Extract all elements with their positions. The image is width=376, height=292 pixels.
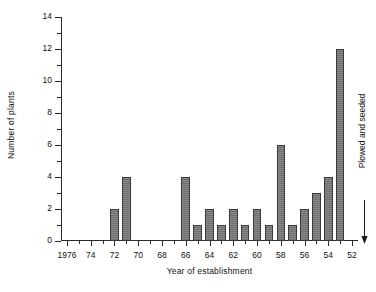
- x-axis-tick-major: [114, 241, 115, 246]
- y-axis-tick-major: 2: [55, 209, 61, 210]
- annotation-label: Plowed and seeded: [357, 94, 367, 169]
- bar: [205, 209, 214, 241]
- x-axis-tick-major: [138, 241, 139, 246]
- x-axis-tick-minor: [340, 241, 341, 244]
- x-axis-tick-major: [210, 241, 211, 246]
- y-axis-tick-major: 6: [55, 145, 61, 146]
- bar: [110, 209, 119, 241]
- x-axis-tick-label: 64: [205, 250, 214, 260]
- x-axis-tick-major: [257, 241, 258, 246]
- y-axis-tick-minor: [57, 33, 61, 34]
- x-axis-tick-label: 56: [300, 250, 309, 260]
- x-axis-tick-label: 54: [324, 250, 333, 260]
- x-axis-tick-label: 72: [110, 250, 119, 260]
- y-axis-title-text: Number of plants: [6, 91, 16, 159]
- x-axis-tick-label: 58: [276, 250, 285, 260]
- y-axis-tick-label: 6: [47, 139, 52, 149]
- y-axis-tick-minor: [57, 161, 61, 162]
- y-axis-tick-minor: [57, 97, 61, 98]
- bar: [288, 225, 297, 241]
- x-axis-tick-label: 66: [181, 250, 190, 260]
- x-axis-tick-label: 68: [157, 250, 166, 260]
- x-axis-tick-major: [305, 241, 306, 246]
- x-axis-tick-minor: [198, 241, 199, 244]
- y-axis-tick-label: 14: [43, 11, 52, 21]
- x-axis-tick-minor: [269, 241, 270, 244]
- x-axis-tick-major: [67, 241, 68, 246]
- x-axis-tick-label: 62: [229, 250, 238, 260]
- y-axis-tick-minor: [57, 193, 61, 194]
- x-axis-tick-minor: [150, 241, 151, 244]
- x-axis-tick-major: [328, 241, 329, 246]
- y-axis-tick-major: 0: [55, 241, 61, 242]
- bar: [312, 193, 321, 241]
- y-axis-tick-major: 12: [55, 49, 61, 50]
- y-axis-tick-major: 14: [55, 17, 61, 18]
- x-axis-tick-minor: [245, 241, 246, 244]
- y-axis-tick-minor: [57, 129, 61, 130]
- bar-chart: Number of plants 02468101214 19767472706…: [0, 0, 376, 292]
- bar: [300, 209, 309, 241]
- bar: [193, 225, 202, 241]
- y-axis-tick-label: 0: [47, 235, 52, 245]
- x-axis-tick-major: [162, 241, 163, 246]
- x-axis-tick-minor: [103, 241, 104, 244]
- y-axis-title: Number of plants: [2, 0, 20, 250]
- x-axis-tick-major: [186, 241, 187, 246]
- y-axis-tick-label: 2: [47, 203, 52, 213]
- bar: [265, 225, 274, 241]
- bar: [122, 177, 131, 241]
- bar: [217, 225, 226, 241]
- x-axis-tick-minor: [126, 241, 127, 244]
- bar: [181, 177, 190, 241]
- x-axis-tick-major: [233, 241, 234, 246]
- x-axis-tick-label: 1976: [57, 250, 76, 260]
- bar: [253, 209, 262, 241]
- bar: [336, 49, 345, 241]
- bar: [324, 177, 333, 241]
- y-axis-tick-minor: [57, 65, 61, 66]
- y-axis-line: [61, 17, 62, 241]
- x-axis-tick-major: [281, 241, 282, 246]
- x-axis-tick-label: 74: [86, 250, 95, 260]
- annotation-arrow-icon: [360, 200, 369, 244]
- y-axis-tick-major: 4: [55, 177, 61, 178]
- x-axis-tick-minor: [316, 241, 317, 244]
- plot-area: 02468101214 1976747270686664626058565452: [61, 17, 358, 241]
- y-axis-tick-label: 8: [47, 107, 52, 117]
- y-axis-tick-minor: [57, 225, 61, 226]
- x-axis-title: Year of establishment: [61, 266, 358, 276]
- y-axis-tick-label: 4: [47, 171, 52, 181]
- y-axis-tick-label: 12: [43, 43, 52, 53]
- bar: [241, 225, 250, 241]
- x-axis-tick-minor: [221, 241, 222, 244]
- y-axis-tick-major: 10: [55, 81, 61, 82]
- bar: [277, 145, 286, 241]
- x-axis-tick-minor: [293, 241, 294, 244]
- x-axis-tick-minor: [174, 241, 175, 244]
- x-axis-tick-label: 52: [347, 250, 356, 260]
- y-axis-tick-label: 10: [43, 75, 52, 85]
- x-axis-tick-label: 70: [133, 250, 142, 260]
- x-axis-tick-label: 60: [252, 250, 261, 260]
- x-axis-tick-major: [91, 241, 92, 246]
- x-axis-tick-major: [352, 241, 353, 246]
- y-axis-tick-major: 8: [55, 113, 61, 114]
- x-axis-tick-minor: [79, 241, 80, 244]
- bar: [229, 209, 238, 241]
